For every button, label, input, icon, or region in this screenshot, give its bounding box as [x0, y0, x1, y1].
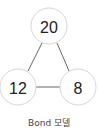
- diagram-caption: Bond 모델: [0, 116, 98, 129]
- node-top: 20: [31, 8, 67, 44]
- edge-top-to-bottom-right: [57, 43, 69, 71]
- node-bottom-right-label: 8: [74, 80, 83, 97]
- node-bottom-right: 8: [60, 69, 96, 105]
- node-top-label: 20: [40, 19, 58, 36]
- bond-model-diagram: 20 12 8: [0, 0, 98, 110]
- node-bottom-left: 12: [0, 69, 36, 105]
- node-bottom-left-label: 12: [9, 80, 27, 97]
- edge-top-to-bottom-left: [28, 43, 42, 71]
